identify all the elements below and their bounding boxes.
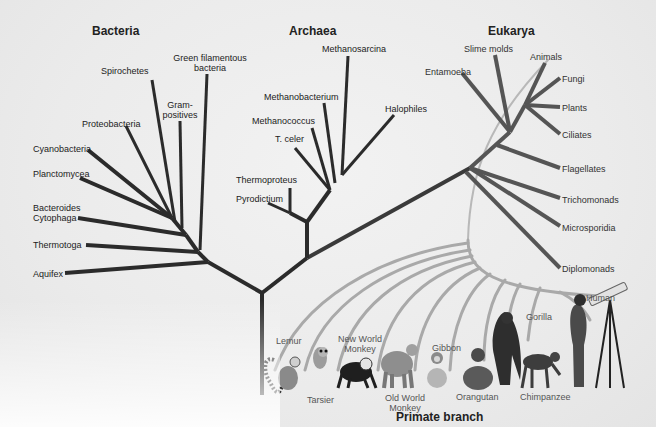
taxon-cyanobacteria: Cyanobacteria: [33, 144, 91, 154]
primate-label-orangutan: Orangutan: [456, 392, 499, 402]
primate-label-lemur: Lemur: [276, 336, 302, 346]
taxon-diplomonads: Diplomonads: [562, 264, 615, 274]
taxon-flagellates: Flagellates: [562, 164, 606, 174]
taxon-spirochetes: Spirochetes: [101, 66, 149, 76]
taxon-entamoeba: Entamoeba: [425, 67, 471, 77]
orangutan-figure: [463, 348, 493, 390]
taxon-animals: Animals: [530, 52, 562, 62]
owm-line1: Old World: [380, 393, 430, 403]
taxon-trichomonads: Trichomonads: [562, 195, 619, 205]
primate-label-chimpanzee: Chimpanzee: [520, 392, 571, 402]
taxon-gram-line2: positives: [158, 110, 202, 120]
taxon-slime-molds: Slime molds: [464, 44, 513, 54]
taxon-green-filamentous-line1: Green filamentous: [170, 53, 250, 63]
taxon-green-filamentous-line2: bacteria: [170, 63, 250, 73]
taxon-gram-positives: Gram- positives: [158, 100, 202, 120]
taxon-green-filamentous-bacteria: Green filamentous bacteria: [170, 53, 250, 73]
taxon-microsporidia: Microsporidia: [562, 223, 616, 233]
taxon-t-celer: T. celer: [275, 134, 304, 144]
bottom-left-fade: [0, 300, 280, 427]
taxon-bacteroides: Bacteroides: [33, 203, 81, 213]
taxon-pyrodictium: Pyrodictium: [236, 194, 283, 204]
taxon-gram-line1: Gram-: [158, 100, 202, 110]
primate-label-human: Human: [586, 293, 615, 303]
taxon-thermoproteus: Thermoproteus: [236, 175, 297, 185]
chimpanzee-figure: [522, 352, 560, 388]
taxon-aquifex: Aquifex: [33, 269, 63, 279]
taxon-ciliates: Ciliates: [562, 130, 592, 140]
nwm-line2: Monkey: [335, 344, 385, 354]
primate-label-tarsier: Tarsier: [307, 395, 334, 405]
taxon-cytophaga: Cytophaga: [33, 213, 81, 223]
old-world-monkey-figure: [381, 344, 418, 388]
taxon-fungi: Fungi: [562, 74, 585, 84]
tarsier-figure: [313, 347, 328, 369]
taxon-methanococcus: Methanococcus: [252, 116, 315, 126]
primate-label-gorilla: Gorilla: [526, 312, 552, 322]
taxon-bacteroides-cytophaga: Bacteroides Cytophaga: [33, 203, 81, 223]
taxon-thermotoga: Thermotoga: [33, 240, 82, 250]
taxon-halophiles: Halophiles: [385, 104, 427, 114]
domain-title-eukarya: Eukarya: [488, 24, 535, 38]
taxon-proteobacteria: Proteobacteria: [82, 119, 141, 129]
primate-branch-title: Primate branch: [396, 410, 483, 424]
new-world-monkey-figure: [338, 358, 376, 388]
eukarya-branches: [462, 55, 560, 268]
nwm-line1: New World: [335, 334, 385, 344]
domain-title-bacteria: Bacteria: [92, 24, 139, 38]
gibbon-figure: [427, 352, 447, 388]
taxon-plants: Plants: [562, 103, 587, 113]
taxon-methanobacterium: Methanobacterium: [264, 92, 339, 102]
taxon-methanosarcina: Methanosarcina: [322, 44, 386, 54]
primate-label-gibbon: Gibbon: [432, 343, 461, 353]
taxon-planctomycea: Planctomycea: [33, 169, 90, 179]
domain-title-archaea: Archaea: [289, 24, 336, 38]
primate-label-new-world-monkey: New World Monkey: [335, 334, 385, 354]
gorilla-figure: [493, 312, 521, 385]
